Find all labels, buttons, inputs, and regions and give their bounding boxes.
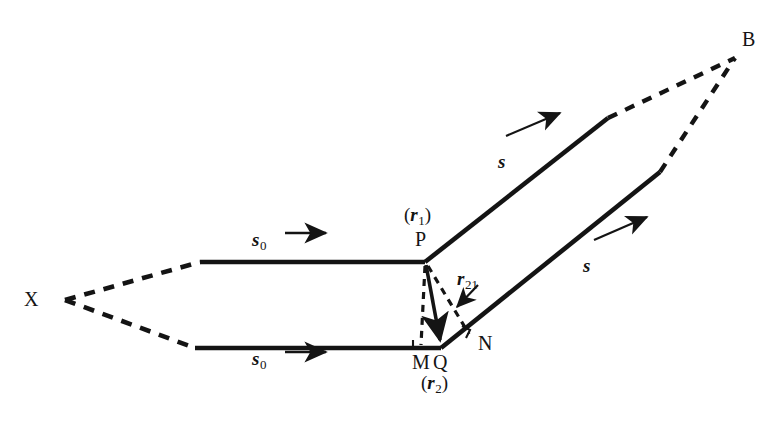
scattered-upper-ray: [425, 58, 735, 262]
direction-arrow-s-upper: [506, 113, 560, 136]
position-vector-label-r1: (r1): [404, 205, 431, 227]
scattered-vector-label-s-upper: s: [498, 152, 505, 171]
perpendicular-line-PM: [421, 266, 425, 345]
r21-symbol: r: [457, 268, 464, 289]
point-label-B: B: [742, 29, 755, 49]
figure-root: X P M Q N B (r1) (r2) r21 s0 s0 s s: [0, 0, 783, 422]
point-label-M: M: [412, 352, 430, 372]
scattered-lower-ray: [441, 58, 735, 348]
scattered-upper-solid-segment: [425, 118, 608, 262]
r2-symbol: r: [427, 372, 434, 393]
scattered-vector-label-s-lower: s: [583, 256, 590, 275]
scattering-diagram-canvas: [0, 0, 783, 422]
point-label-X: X: [24, 289, 38, 309]
incident-upper-ray: [65, 262, 425, 300]
vector-arrow-PQ: [426, 265, 440, 340]
incident-lower-ray: [65, 300, 441, 348]
separation-vector-label-r21: r21: [457, 269, 478, 291]
s0-upper-symbol: s: [252, 229, 259, 250]
incident-vector-label-s0-upper: s0: [252, 230, 266, 252]
point-label-Q: Q: [433, 352, 447, 372]
point-label-N: N: [478, 333, 492, 353]
incident-upper-dashed-segment: [65, 262, 200, 300]
s0-upper-subscript: 0: [260, 238, 267, 253]
position-vector-label-r2: (r2): [421, 373, 448, 395]
incident-lower-dashed-segment: [65, 300, 195, 348]
s-lower-symbol: s: [583, 255, 590, 276]
s0-lower-subscript: 0: [260, 357, 267, 372]
point-label-P: P: [415, 229, 426, 249]
r1-symbol: r: [410, 204, 417, 225]
scattered-lower-solid-segment: [441, 172, 660, 348]
r21-subscript: 21: [465, 277, 478, 292]
r2-close-paren: ): [442, 372, 448, 393]
incident-vector-label-s0-lower: s0: [252, 349, 266, 371]
r1-close-paren: ): [425, 204, 431, 225]
s-upper-symbol: s: [498, 151, 505, 172]
s0-lower-symbol: s: [252, 348, 259, 369]
